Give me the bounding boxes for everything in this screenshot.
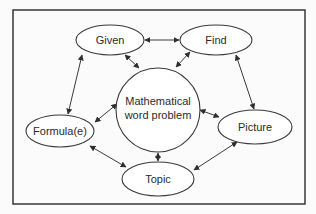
node-topic: Topic [122,162,194,196]
edge-find-center [176,52,190,67]
node-given: Given [76,25,144,55]
node-formula-label: Formula(e) [33,125,87,137]
edge-picture-center [200,110,219,117]
node-find: Find [180,25,252,55]
edge-picture-topic [194,142,237,170]
concept-map: Mathematical word problem Given Find For… [0,0,316,214]
node-given-label: Given [96,34,125,46]
node-topic-label: Topic [145,173,171,185]
node-picture-label: Picture [238,121,272,133]
diagram-canvas: Mathematical word problem Given Find For… [0,0,316,214]
edge-formula-topic [90,146,126,167]
edge-formula-center [95,104,117,122]
edge-given-formula [68,55,82,114]
edge-find-picture [236,55,254,109]
node-center-label-line1: Mathematical [125,95,190,107]
node-picture: Picture [218,110,292,144]
node-center-label-line2: word problem [124,109,192,121]
node-find-label: Find [205,34,226,46]
node-center: Mathematical word problem [116,68,200,152]
node-formula: Formula(e) [26,115,94,147]
edge-given-center [125,55,139,68]
